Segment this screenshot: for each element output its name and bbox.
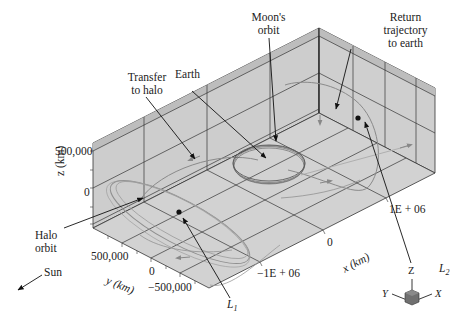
moon-orbit-label-line2: orbit [231, 24, 306, 37]
l2-point [355, 115, 360, 120]
y-tick-neg500000: −500,000 [148, 281, 192, 294]
transfer-label: Transfer to halo [112, 71, 182, 97]
halo-label-line1: Halo [35, 229, 57, 242]
l2-label: L2 [439, 262, 449, 279]
transfer-label-line1: Transfer [112, 71, 182, 84]
moon-orbit-label-line1: Moon's [231, 11, 306, 24]
return-label-line2: trajectory [368, 24, 443, 37]
transfer-label-line2: to halo [112, 84, 182, 97]
return-label: Return trajectory to earth [368, 11, 443, 50]
earth-label: Earth [175, 68, 200, 81]
x-tick-0: 0 [327, 236, 333, 249]
moon-orbit-label: Moon's orbit [231, 11, 306, 37]
axis-triad [392, 279, 432, 305]
x-tick-neg1e6: −1E + 06 [257, 267, 300, 280]
sun-label: Sun [44, 266, 62, 279]
halo-label-line2: orbit [35, 242, 57, 255]
x-tick-1e6: 1E + 06 [389, 203, 426, 216]
z-axis-label: z (km) [54, 146, 67, 176]
z-tick-0: 0 [84, 186, 90, 199]
y-tick-0: 0 [149, 265, 155, 278]
l1-label: L1 [227, 298, 237, 315]
return-label-line1: Return [368, 11, 443, 24]
y-tick-500000: 500,000 [91, 250, 128, 263]
return-label-line3: to earth [368, 37, 443, 50]
triad-x-label: X [435, 287, 441, 300]
l1-point [176, 209, 181, 214]
triad-y-label: Y [382, 287, 388, 300]
halo-orbit-label: Halo orbit [35, 229, 57, 255]
triad-z-label: Z [408, 264, 414, 277]
